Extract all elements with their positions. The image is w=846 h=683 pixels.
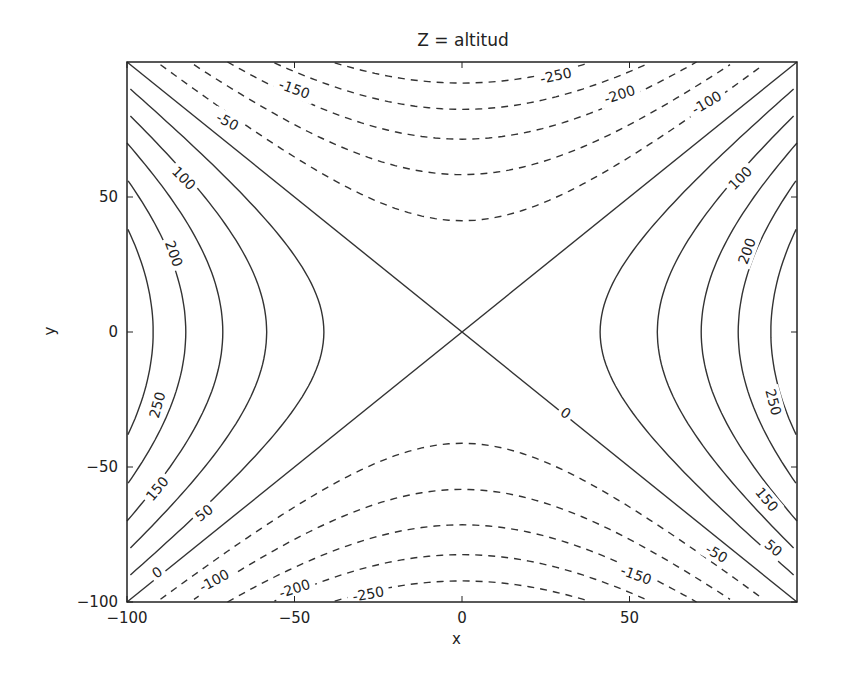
contour-label: -100 <box>191 563 237 599</box>
contour-line <box>274 63 649 110</box>
contour-line <box>161 65 764 221</box>
contour-line <box>128 181 186 483</box>
y-tick-label: 0 <box>108 323 118 341</box>
svg-text:250: 250 <box>146 390 168 420</box>
y-axis-label: y <box>41 327 59 336</box>
contour-lines <box>127 62 797 602</box>
svg-text:-250: -250 <box>539 64 573 86</box>
chart-title: Z = altitud <box>0 30 846 50</box>
contour-plot: -150-50-250-200-100100200100200250250015… <box>0 0 846 683</box>
contour-line <box>274 555 649 602</box>
svg-text:200: 200 <box>735 236 759 267</box>
x-axis-label: x <box>452 630 461 648</box>
y-tick-label: −50 <box>86 458 118 476</box>
contour-line <box>194 65 730 175</box>
contour-label: 0 <box>146 561 169 584</box>
y-tick-label: 50 <box>99 188 118 206</box>
contour-label: -250 <box>533 62 578 88</box>
contour-label: -150 <box>613 559 659 590</box>
contour-label: 200 <box>160 235 188 272</box>
contour-label: 100 <box>722 160 758 196</box>
contour-label: 0 <box>555 401 578 424</box>
x-tick-label: 0 <box>457 609 467 627</box>
contour-line <box>130 89 324 575</box>
contour-label: -200 <box>597 79 643 109</box>
x-tick-label: 50 <box>620 609 639 627</box>
contour-label: 50 <box>189 498 219 527</box>
contour-line <box>161 443 764 599</box>
contour-label: 250 <box>761 384 787 421</box>
contour-label: 100 <box>166 160 202 196</box>
x-tick-label: −50 <box>279 609 311 627</box>
svg-text:250: 250 <box>762 387 784 417</box>
contour-label: -50 <box>698 537 736 569</box>
y-tick-label: −100 <box>77 593 118 611</box>
contour-label: 150 <box>140 470 175 507</box>
x-tick-label: −100 <box>106 609 147 627</box>
contour-label: -100 <box>684 84 729 121</box>
contour-line <box>738 181 796 483</box>
svg-text:200: 200 <box>162 238 186 269</box>
